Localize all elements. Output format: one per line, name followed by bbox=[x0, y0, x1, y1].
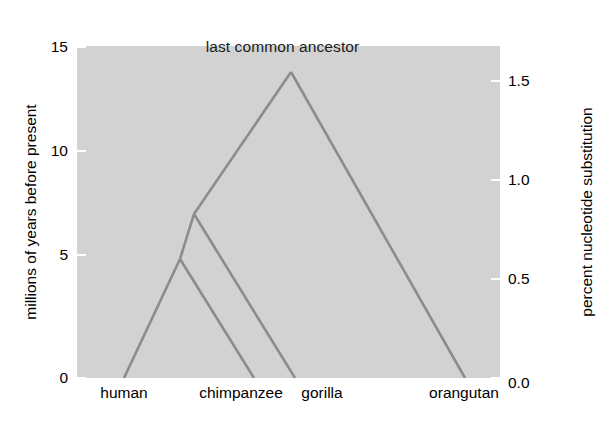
y-axis-title-right: percent nucleotide substitution bbox=[578, 46, 600, 378]
tick-mark-left-10 bbox=[77, 150, 86, 152]
phylogenetic-tree-figure: last common ancestor 15 10 5 0 1.5 1.0 0… bbox=[0, 0, 600, 432]
branch-hc-to-human bbox=[124, 259, 180, 378]
taxon-label-orangutan: orangutan bbox=[429, 384, 499, 402]
last-common-ancestor-label: last common ancestor bbox=[71, 38, 494, 56]
tick-mark-left-0 bbox=[77, 377, 86, 379]
tree-branches bbox=[124, 72, 465, 378]
taxon-label-chimpanzee: chimpanzee bbox=[199, 384, 283, 402]
branch-root-to-hcg bbox=[194, 72, 291, 214]
tick-label-left-0: 0 bbox=[40, 370, 68, 386]
tick-mark-right-0-5 bbox=[491, 278, 500, 280]
tick-mark-left-5 bbox=[77, 254, 86, 256]
tick-label-right-1-5: 1.5 bbox=[508, 73, 530, 89]
taxon-label-human: human bbox=[100, 384, 147, 402]
branch-root-to-orangutan bbox=[291, 72, 465, 378]
tick-mark-right-1-0 bbox=[491, 179, 500, 181]
tick-label-right-0-0: 0.0 bbox=[508, 375, 530, 391]
branch-hcg-to-hc bbox=[180, 214, 194, 259]
tick-label-left-10: 10 bbox=[40, 143, 68, 159]
tick-label-right-0-5: 0.5 bbox=[508, 271, 530, 287]
tick-label-right-1-0: 1.0 bbox=[508, 172, 530, 188]
tick-mark-right-0-0 bbox=[491, 377, 500, 379]
tick-mark-left-15 bbox=[77, 46, 86, 48]
branch-hc-to-chimpanzee bbox=[180, 259, 254, 378]
plot-area bbox=[77, 46, 500, 378]
branch-hcg-to-gorilla bbox=[194, 214, 295, 378]
tick-mark-right-1-5 bbox=[491, 80, 500, 82]
y-axis-title-left: millions of years before present bbox=[22, 46, 44, 378]
tick-label-left-5: 5 bbox=[40, 247, 68, 263]
tree-svg bbox=[77, 46, 500, 378]
taxon-label-gorilla: gorilla bbox=[301, 384, 342, 402]
tick-label-left-15: 15 bbox=[40, 39, 68, 55]
